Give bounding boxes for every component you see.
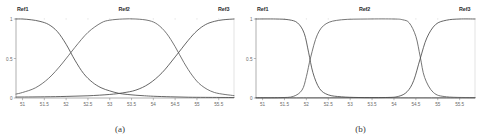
- set-label-ref1: Ref1: [257, 6, 268, 12]
- set-label-ref3: Ref3: [459, 6, 470, 12]
- x-tick-label: 54.5: [171, 102, 180, 107]
- x-tick-label: 51.5: [280, 102, 289, 107]
- x-tick-label: 55: [435, 102, 440, 107]
- x-tick-label: 55.5: [455, 102, 464, 107]
- y-tick-label: 0: [0, 96, 13, 101]
- y-tick-label: 0.5: [0, 56, 13, 61]
- x-tick-label: 52: [304, 102, 309, 107]
- y-tick-label: 0.5: [240, 56, 253, 61]
- x-ticks: [263, 18, 460, 100]
- y-tick-label: 1: [0, 17, 13, 22]
- series-line-ref3: [256, 19, 475, 98]
- x-tick-label: 51.5: [40, 102, 49, 107]
- x-tick-label: 53.5: [127, 102, 136, 107]
- membership-plot: [0, 0, 240, 135]
- x-tick-label: 54.5: [411, 102, 420, 107]
- x-tick-label: 53.5: [368, 102, 377, 107]
- series-line-ref1: [256, 19, 475, 98]
- set-label-ref2: Ref2: [359, 6, 370, 12]
- series-line-ref2: [256, 19, 475, 98]
- membership-plot: [240, 0, 481, 135]
- set-label-ref2: Ref2: [118, 6, 129, 12]
- series-line-ref2: [16, 19, 234, 96]
- x-tick-label: 55.5: [214, 102, 223, 107]
- series-group: [256, 19, 475, 98]
- x-tick-label: 52.5: [324, 102, 333, 107]
- x-tick-label: 52.5: [83, 102, 92, 107]
- x-tick-label: 54: [391, 102, 396, 107]
- y-tick-label: 0: [240, 96, 253, 101]
- series-group: [16, 19, 234, 98]
- panel-caption: (a): [0, 124, 240, 134]
- axes: [16, 18, 234, 98]
- x-tick-label: 55: [194, 102, 199, 107]
- set-label-ref3: Ref3: [218, 6, 229, 12]
- x-tick-label: 53: [348, 102, 353, 107]
- x-ticks: [23, 18, 219, 100]
- x-tick-label: 52: [64, 102, 69, 107]
- figure-container: 5151.55252.55353.55454.55555.500.51Ref1R…: [0, 0, 481, 135]
- panel-caption: (b): [240, 124, 481, 134]
- y-tick-label: 1: [240, 17, 253, 22]
- axes: [256, 18, 475, 98]
- panel-a: 5151.55252.55353.55454.55555.500.51Ref1R…: [0, 0, 240, 135]
- x-tick-label: 53: [107, 102, 112, 107]
- panel-b: 5151.55252.55353.55454.55555.500.51Ref1R…: [240, 0, 481, 135]
- set-label-ref1: Ref1: [17, 6, 28, 12]
- x-tick-label: 54: [151, 102, 156, 107]
- x-tick-label: 51: [20, 102, 25, 107]
- x-tick-label: 51: [260, 102, 265, 107]
